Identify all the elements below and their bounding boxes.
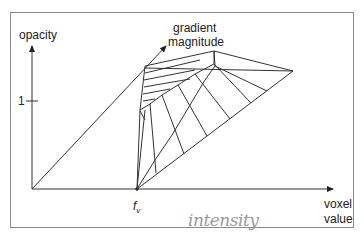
opacity-surface xyxy=(137,51,293,189)
handwritten-annotation: intensity xyxy=(188,210,258,230)
x-axis-label-line2: value xyxy=(324,212,353,226)
x-tick-fv: fv xyxy=(133,199,140,218)
x-axis-label-line1: voxel xyxy=(324,197,352,211)
y-tick-one: 1 xyxy=(18,94,25,108)
gradient-magnitude-axis xyxy=(32,46,166,189)
y-axis-label: opacity xyxy=(19,28,57,42)
z-axis-label-line2: magnitude xyxy=(168,35,224,49)
z-axis-label-line1: gradient xyxy=(173,21,216,35)
